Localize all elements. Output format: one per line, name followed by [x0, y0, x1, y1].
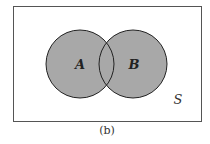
- figure-caption: (b): [99, 124, 115, 137]
- set-a-label: A: [73, 57, 85, 72]
- venn-diagram-figure: A B S (b): [0, 0, 210, 144]
- universe-label: S: [174, 92, 183, 107]
- set-b-label: B: [128, 57, 140, 72]
